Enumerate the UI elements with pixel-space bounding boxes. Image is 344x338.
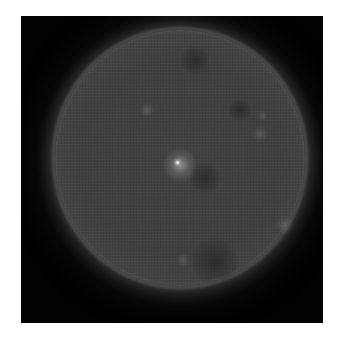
solar-limb bbox=[52, 27, 308, 289]
solar-disk bbox=[55, 30, 305, 286]
solar-image-frame bbox=[21, 16, 323, 323]
active-region-core bbox=[176, 161, 179, 164]
